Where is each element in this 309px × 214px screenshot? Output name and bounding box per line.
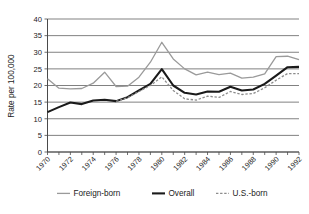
legend-label: Foreign-born	[74, 189, 121, 198]
chart-container: 0510152025303540 19701972197419761978198…	[0, 0, 309, 214]
legend-label: Overall	[169, 189, 195, 198]
chart-background	[0, 0, 309, 214]
legend-label: U.S.-born	[233, 189, 268, 198]
y-tick-label: 35	[34, 31, 42, 40]
y-tick-label: 20	[34, 81, 42, 90]
y-tick-label: 5	[38, 131, 42, 140]
y-tick-label: 30	[34, 48, 42, 57]
line-chart: 0510152025303540 19701972197419761978198…	[0, 0, 309, 214]
y-axis-title: Rate per 100,000	[7, 54, 16, 118]
y-tick-label: 40	[34, 15, 42, 24]
y-tick-label: 0	[38, 148, 42, 157]
y-tick-label: 10	[34, 115, 42, 124]
y-tick-label: 15	[34, 98, 42, 107]
y-tick-label: 25	[34, 65, 42, 74]
